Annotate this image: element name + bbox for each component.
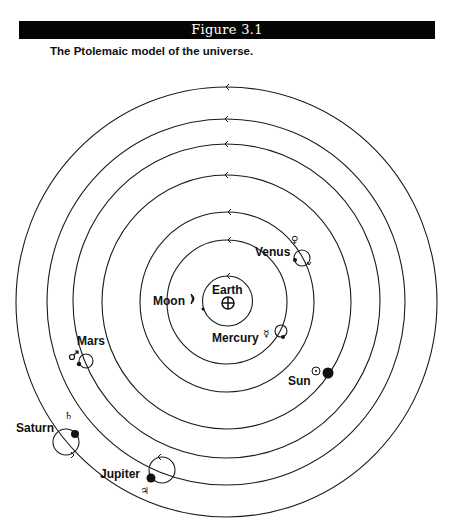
mercury: Mercury ☿ — [212, 325, 287, 345]
sun-label: Sun — [288, 374, 311, 388]
jupiter: Jupiter ♃ — [100, 454, 175, 496]
earth: Earth — [212, 283, 243, 309]
orbits — [16, 87, 437, 517]
sun-symbol-icon — [312, 367, 320, 375]
mars-label: Mars — [77, 334, 105, 348]
jupiter-body — [147, 474, 156, 483]
mars-body — [77, 362, 81, 366]
mars-epicycle — [79, 354, 93, 368]
venus-label: Venus — [255, 245, 291, 259]
moon: Moon — [153, 294, 205, 311]
moon-label: Moon — [153, 294, 185, 308]
mars: Mars — [70, 334, 106, 368]
jupiter-symbol-icon: ♃ — [140, 485, 149, 496]
mercury-epicycle — [275, 325, 287, 337]
earth-symbol-icon — [222, 297, 234, 309]
moon-body — [202, 308, 205, 311]
saturn-body — [71, 430, 79, 438]
venus-symbol-icon: ♀ — [291, 234, 298, 245]
mercury-label: Mercury — [212, 331, 259, 345]
mars-symbol-icon — [70, 351, 79, 360]
moon-symbol-icon — [191, 294, 194, 304]
venus-body — [293, 258, 297, 262]
saturn-orbit — [16, 87, 437, 517]
orbit-direction-arrows — [225, 84, 231, 279]
mercury-symbol-icon: ☿ — [263, 328, 269, 339]
earth-label: Earth — [212, 283, 243, 297]
saturn: Saturn ♄ — [16, 410, 79, 458]
mercury-body — [281, 335, 285, 339]
ptolemaic-diagram: Earth Moon Mercury ☿ Venus ♀ Sun — [0, 0, 452, 531]
sun: Sun — [288, 367, 334, 388]
jupiter-label: Jupiter — [100, 467, 140, 481]
saturn-symbol-icon: ♄ — [64, 410, 73, 421]
venus: Venus ♀ — [255, 234, 311, 266]
sun-body — [323, 368, 334, 379]
mars-orbit — [73, 144, 380, 458]
saturn-label: Saturn — [16, 421, 54, 435]
